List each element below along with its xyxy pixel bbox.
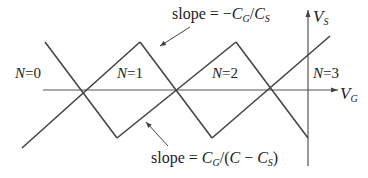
top-slope-arrow (160, 27, 190, 46)
n-symbol: N (212, 65, 222, 81)
cap-symbol: C (202, 149, 213, 166)
cap-symbol: C (232, 5, 243, 22)
vg-axis-label: VG (340, 85, 358, 104)
slope-prefix: slope = (172, 5, 223, 22)
bottom-slope-annotation: slope = CG/(C − CS) (151, 150, 278, 168)
n-value: =2 (222, 65, 238, 81)
n-symbol: N (313, 65, 323, 81)
region-label-n3: N=3 (313, 66, 339, 81)
n-value: =0 (25, 65, 41, 81)
cap-subscript: G (212, 157, 219, 168)
axis-subscript: G (350, 93, 357, 104)
cap-symbol: C (254, 5, 265, 22)
vs-axis-label: VS (313, 8, 328, 27)
n-symbol: N (117, 65, 127, 81)
bottom-slope-arrow (146, 122, 168, 146)
n-value: =3 (323, 65, 339, 81)
region-label-n2: N=2 (212, 66, 238, 81)
axis-symbol: V (313, 7, 323, 26)
slope-prefix: slope = (151, 149, 202, 166)
n-symbol: N (15, 65, 25, 81)
rising-edges (22, 36, 330, 148)
axis-symbol: V (340, 84, 350, 103)
cap-subscript: G (243, 13, 250, 24)
close-paren: ) (273, 149, 278, 166)
n-value: =1 (127, 65, 143, 81)
minus-sign: − (240, 149, 257, 166)
cap-symbol: C (257, 149, 268, 166)
axis-subscript: S (323, 16, 328, 27)
minus-sign: − (223, 5, 232, 22)
top-slope-annotation: slope = −CG/CS (172, 6, 270, 24)
region-label-n0: N=0 (15, 66, 41, 81)
cap-symbol: C (229, 149, 240, 166)
cap-subscript: S (265, 13, 270, 24)
region-label-n1: N=1 (117, 66, 143, 81)
